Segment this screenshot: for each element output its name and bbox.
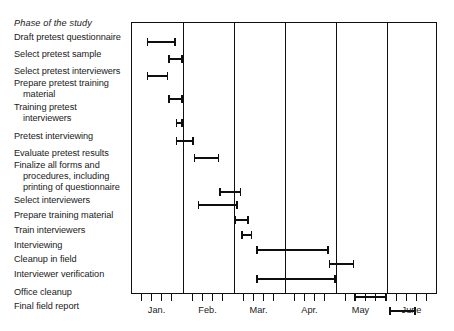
axis-tick-minor xyxy=(141,294,142,301)
axis-tick-minor xyxy=(355,294,356,301)
task-label: Train interviewers xyxy=(14,225,85,236)
axis-tick-minor xyxy=(253,294,254,301)
task-label: Cleanup in field xyxy=(14,254,77,265)
axis-tick-minor xyxy=(171,294,172,301)
axis-month-label: May xyxy=(352,305,369,315)
task-label-line: Finalize all forms and xyxy=(14,160,120,171)
phase-column-title: Phase of the study xyxy=(14,18,92,28)
axis-tick-minor xyxy=(273,294,274,301)
task-label-line: material xyxy=(14,89,109,100)
gridline-month-may xyxy=(336,23,337,293)
axis-tick-minor xyxy=(161,294,162,301)
task-label-line: procedures, including xyxy=(14,171,120,182)
axis-tick-minor xyxy=(314,294,315,301)
axis-tick-minor xyxy=(396,294,397,301)
gantt-bar xyxy=(256,249,329,251)
task-label-line: Train interviewers xyxy=(14,225,85,236)
gridline-month-june xyxy=(387,23,388,293)
gantt-bar xyxy=(241,234,252,236)
task-label-line: interviewers xyxy=(14,113,77,124)
gantt-bar xyxy=(329,263,355,265)
task-label-line: Training pretest xyxy=(14,102,77,113)
gridline-month-apr xyxy=(285,23,286,293)
task-label: Draft pretest questionnaire xyxy=(14,32,121,43)
task-label-line: Select pretest interviewers xyxy=(14,66,120,77)
task-label-line: Evaluate pretest results xyxy=(14,148,109,159)
gantt-bar xyxy=(194,157,220,159)
task-label: Select pretest interviewers xyxy=(14,66,120,77)
gantt-bar xyxy=(176,122,183,124)
task-label: Select pretest sample xyxy=(14,49,101,60)
gantt-bar xyxy=(147,75,168,77)
task-label-line: Interviewing xyxy=(14,240,62,251)
task-label: Pretest interviewing xyxy=(14,131,93,142)
axis-month-label: Apr. xyxy=(301,305,317,315)
axis-tick-minor xyxy=(192,294,193,301)
task-label: Office cleanup xyxy=(14,287,72,298)
axis-tick-minor xyxy=(212,294,213,301)
axis-tick-minor xyxy=(426,294,427,301)
axis-tick-minor xyxy=(324,294,325,301)
axis-tick-minor xyxy=(151,294,152,301)
axis-month-label: Jan. xyxy=(148,305,165,315)
task-label: Interviewer verification xyxy=(14,269,104,280)
task-label: Prepare pretest trainingmaterial xyxy=(14,78,109,100)
task-label: Final field report xyxy=(14,301,79,312)
task-label-line: Select interviewers xyxy=(14,195,90,206)
gantt-bar xyxy=(219,191,241,193)
gridline-month-feb xyxy=(183,23,184,293)
plot-area xyxy=(131,22,437,294)
task-label: Interviewing xyxy=(14,240,62,251)
gantt-bar xyxy=(176,140,194,142)
task-label-line: Select pretest sample xyxy=(14,49,101,60)
x-axis: Jan.Feb.Mar.Apr.MayJune xyxy=(131,294,437,331)
gantt-bar xyxy=(234,219,249,221)
gantt-bar xyxy=(168,98,183,100)
axis-month-label: Mar. xyxy=(250,305,268,315)
task-label-line: Prepare pretest training xyxy=(14,78,109,89)
axis-month-label: Feb. xyxy=(198,305,216,315)
axis-tick-minor xyxy=(416,294,417,301)
task-label-line: Interviewer verification xyxy=(14,269,104,280)
task-label: Prepare training material xyxy=(14,210,113,221)
axis-tick-minor xyxy=(345,294,346,301)
gantt-chart: Phase of the study Draft pretest questio… xyxy=(0,0,454,331)
gantt-bar xyxy=(168,58,183,60)
axis-tick-minor xyxy=(243,294,244,301)
gantt-bar xyxy=(198,204,238,206)
axis-tick-minor xyxy=(375,294,376,301)
task-label: Finalize all forms andprocedures, includ… xyxy=(14,160,120,194)
task-label-line: Prepare training material xyxy=(14,210,113,221)
gantt-bar xyxy=(256,278,336,280)
axis-month-label: June xyxy=(402,305,422,315)
task-label-line: Draft pretest questionnaire xyxy=(14,32,121,43)
task-label-column: Phase of the study Draft pretest questio… xyxy=(0,0,131,331)
axis-tick-minor xyxy=(406,294,407,301)
gantt-bar xyxy=(147,41,176,43)
task-label-line: printing of questionnaire xyxy=(14,182,120,193)
axis-tick-minor xyxy=(222,294,223,301)
task-label-line: Office cleanup xyxy=(14,287,72,298)
task-label-line: Final field report xyxy=(14,301,79,312)
axis-tick-minor xyxy=(263,294,264,301)
gridline-month-mar xyxy=(234,23,235,293)
task-label-line: Cleanup in field xyxy=(14,254,77,265)
task-label: Select interviewers xyxy=(14,195,90,206)
axis-tick-minor xyxy=(202,294,203,301)
axis-tick-minor xyxy=(304,294,305,301)
axis-tick-minor xyxy=(365,294,366,301)
task-label: Training pretestinterviewers xyxy=(14,102,77,124)
task-label-line: Pretest interviewing xyxy=(14,131,93,142)
task-label: Evaluate pretest results xyxy=(14,148,109,159)
axis-tick-minor xyxy=(294,294,295,301)
